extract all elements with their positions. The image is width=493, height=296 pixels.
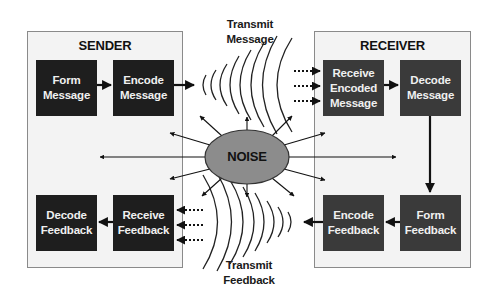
diagram-graphics [0, 0, 493, 296]
noise-label: NOISE [217, 149, 277, 164]
dotted-arrows-receive [294, 71, 320, 101]
dotted-arrows-feedback [177, 210, 203, 240]
